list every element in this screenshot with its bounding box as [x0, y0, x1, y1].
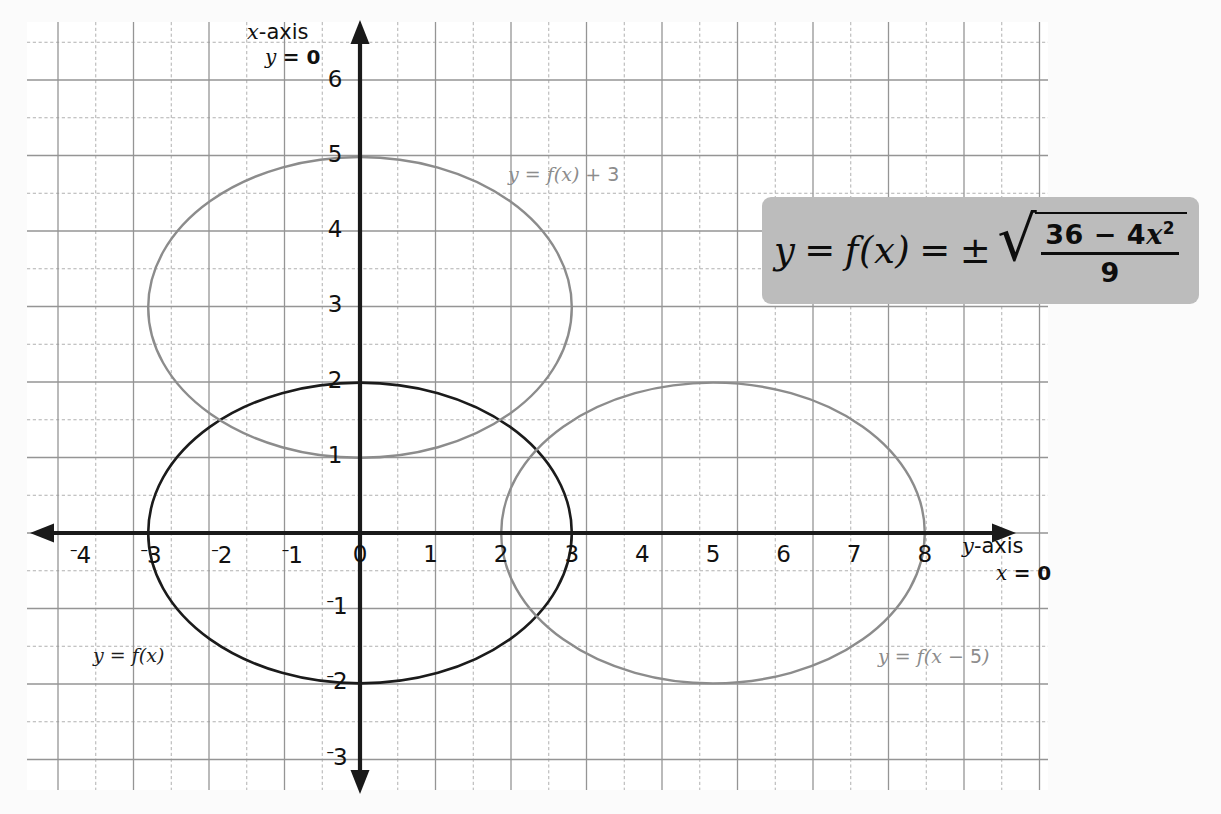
y-tick-1: 1: [321, 442, 349, 468]
equation-f: f: [845, 229, 859, 272]
equation-expression: y = f(x) = ± √ 36 − 4x2 9: [774, 212, 1187, 289]
equation-callout: y = f(x) = ± √ 36 − 4x2 9: [762, 197, 1199, 304]
equation-equals-1: =: [804, 229, 836, 272]
horizontal-axis-label: y-axis: [962, 534, 1024, 558]
y-tick--1: 1: [323, 592, 351, 619]
equation-equals-2: =: [919, 229, 951, 272]
equation-sqrt: √ 36 − 4x2 9: [997, 212, 1187, 289]
fraction-denominator: 9: [1097, 255, 1124, 289]
y-tick-6: 6: [321, 66, 349, 92]
y-tick-3: 3: [321, 291, 349, 317]
x-tick--3: 3: [137, 541, 165, 568]
x-tick-1: 1: [417, 541, 445, 567]
vertical-axis-label: x-axis: [247, 20, 309, 44]
curve-label-f: y = f(x): [93, 644, 164, 666]
x-tick-0: 0: [346, 541, 374, 567]
curve-label-f-minus-5: y = f(x − 5): [878, 645, 989, 667]
x-tick--4: 4: [67, 541, 95, 568]
x-tick-3: 3: [558, 541, 586, 567]
equation-arg: (x): [859, 229, 910, 272]
equation-plus-minus: ±: [960, 229, 992, 272]
radicand: 36 − 4x2 9: [1035, 212, 1187, 289]
x-tick--1: 1: [278, 541, 306, 568]
x-tick-8: 8: [911, 541, 939, 567]
y-tick--2: 2: [323, 667, 351, 694]
y-tick-4: 4: [321, 216, 349, 242]
graph-plot: [0, 0, 1221, 814]
fraction-numerator: 36 − 4x2: [1041, 217, 1179, 252]
equation-y: y: [774, 229, 795, 272]
y-tick--3: 3: [323, 743, 351, 770]
grid-background: [27, 22, 1048, 790]
radical-sign: √: [997, 214, 1037, 291]
vertical-axis-equation: y = 0: [265, 45, 320, 69]
y-tick-2: 2: [321, 367, 349, 393]
x-tick-4: 4: [628, 541, 656, 567]
x-tick-2: 2: [487, 541, 515, 567]
x-tick--2: 2: [208, 541, 236, 568]
x-tick-6: 6: [770, 541, 798, 567]
curve-label-f-plus-3: y = f(x) + 3: [508, 163, 619, 185]
horizontal-axis-equation: x = 0: [996, 561, 1051, 585]
x-tick-7: 7: [840, 541, 868, 567]
figure-canvas: x-axis y = 0 y-axis x = 0 y = f(x) + 3 y…: [0, 0, 1221, 814]
y-tick-5: 5: [321, 141, 349, 167]
x-tick-5: 5: [699, 541, 727, 567]
